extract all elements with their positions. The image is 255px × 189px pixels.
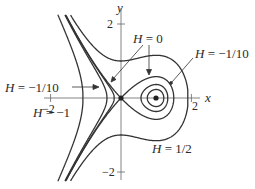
label-value: = −1/10 — [204, 46, 248, 61]
h-symbol: H — [195, 46, 204, 61]
label-h-neg-1: H = −1 — [33, 106, 70, 119]
label-value: = 0 — [142, 31, 162, 46]
h-symbol: H — [152, 141, 161, 156]
h-symbol: H — [5, 80, 14, 95]
x-axis-label: x — [205, 91, 211, 104]
label-pointers — [72, 45, 193, 90]
h-symbol: H — [133, 31, 142, 46]
pointer-dot — [170, 82, 173, 85]
y-tick-label-neg2: −2 — [102, 166, 115, 178]
center-point — [153, 95, 158, 100]
h-symbol: H — [33, 105, 42, 120]
y-tick-label-2: 2 — [107, 18, 113, 30]
label-h-0: H = 0 — [133, 32, 163, 45]
label-h-1-2: H = 1/2 — [152, 142, 192, 155]
label-value: = −1/10 — [14, 80, 58, 95]
y-axis-label: y — [117, 1, 123, 14]
pointer-h0-left — [113, 45, 143, 79]
arrowhead-icon — [147, 70, 152, 76]
arrowhead-icon — [111, 77, 116, 83]
label-h-neg-1-10-right: H = −1/10 — [195, 47, 249, 60]
label-value: = −1 — [42, 105, 70, 120]
x-tick-label-2: 2 — [192, 100, 198, 112]
label-value: = 1/2 — [161, 141, 191, 156]
saddle-point — [118, 95, 123, 100]
arrowhead-icon — [93, 85, 99, 90]
label-h-neg-1-10-left: H = −1/10 — [5, 81, 59, 94]
